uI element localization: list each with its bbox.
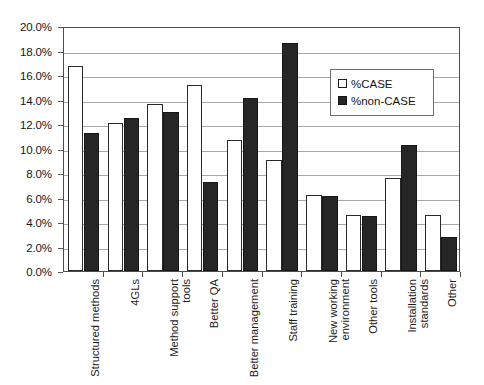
bars-layer [64, 28, 459, 271]
bar-group [385, 28, 417, 271]
y-axis: 20.0%18.0%16.0%14.0%12.0%10.0%8.0%6.0%4.… [0, 0, 58, 385]
bar-case [306, 195, 322, 271]
x-axis-tick-label: 4GLs [129, 279, 141, 383]
x-axis-tick-label: Other [446, 279, 458, 383]
x-axis-tick-mark [341, 272, 342, 277]
x-axis-tick-mark [301, 272, 302, 277]
bar-non-case [441, 237, 457, 271]
bar-case [147, 104, 163, 271]
x-axis-tick-label: New working environment [327, 279, 352, 383]
bar-case [385, 178, 401, 271]
bar-case [425, 215, 441, 271]
x-axis-tick-mark [222, 272, 223, 277]
bar-non-case [401, 145, 417, 271]
x-axis-tick-mark [460, 272, 461, 277]
y-axis-tick-label: 12.0% [20, 119, 52, 131]
bar-group [266, 28, 298, 271]
legend-label-case: %CASE [351, 78, 393, 90]
x-axis-tick-mark [262, 272, 263, 277]
bar-group [187, 28, 219, 271]
y-axis-tick-label: 6.0% [26, 193, 52, 205]
bar-case [108, 123, 124, 271]
x-axis-tick-label: Installation standards [406, 279, 431, 383]
x-axis-tick-mark [182, 272, 183, 277]
legend-label-non-case: %non-CASE [351, 95, 416, 107]
y-axis-tick-label: 2.0% [26, 242, 52, 254]
bar-non-case [203, 182, 219, 271]
bar-group [227, 28, 259, 271]
x-axis-tick-label: Structured methods [89, 279, 101, 383]
x-axis-tick-mark [142, 272, 143, 277]
bar-non-case [84, 133, 100, 271]
bar-group [346, 28, 378, 271]
bar-group [147, 28, 179, 271]
x-axis-tick-label: Method support tools [168, 279, 193, 383]
bar-case [68, 66, 84, 271]
bar-group [425, 28, 457, 271]
bar-group [306, 28, 338, 271]
y-axis-tick-label: 8.0% [26, 168, 52, 180]
bar-case [227, 140, 243, 271]
x-axis-tick-label: Better QA [208, 279, 220, 383]
legend-item-non-case: %non-CASE [338, 92, 427, 109]
x-axis-tick-mark [103, 272, 104, 277]
x-axis-tick-mark [381, 272, 382, 277]
bar-case [187, 85, 203, 271]
bar-non-case [243, 98, 259, 271]
chart-legend: %CASE %non-CASE [330, 69, 434, 116]
y-axis-tick-label: 18.0% [20, 46, 52, 58]
bar-non-case [282, 43, 298, 271]
bar-case [266, 160, 282, 271]
open-square-swatch-icon [338, 79, 347, 88]
bar-non-case [163, 112, 179, 271]
bar-non-case [322, 196, 338, 271]
x-axis-ticks [63, 272, 460, 278]
filled-square-swatch-icon [338, 96, 347, 105]
y-axis-tick-label: 16.0% [20, 70, 52, 82]
x-axis: Structured methods4GLsMethod support too… [63, 279, 460, 385]
bar-chart: 20.0%18.0%16.0%14.0%12.0%10.0%8.0%6.0%4.… [0, 0, 484, 385]
plot-area [63, 27, 460, 272]
x-axis-tick-label: Better management [248, 279, 260, 383]
bar-group [68, 28, 100, 271]
legend-item-case: %CASE [338, 75, 427, 92]
y-axis-tick-label: 0.0% [26, 266, 52, 278]
bar-case [346, 215, 362, 271]
bar-non-case [362, 216, 378, 271]
x-axis-tick-label: Staff training [287, 279, 299, 383]
y-axis-tick-label: 14.0% [20, 95, 52, 107]
y-axis-tick-label: 4.0% [26, 217, 52, 229]
x-axis-tick-label: Other tools [367, 279, 379, 383]
bar-group [108, 28, 140, 271]
y-axis-tick-label: 10.0% [20, 144, 52, 156]
bar-non-case [124, 118, 140, 271]
x-axis-tick-mark [420, 272, 421, 277]
y-axis-tick-label: 20.0% [20, 21, 52, 33]
